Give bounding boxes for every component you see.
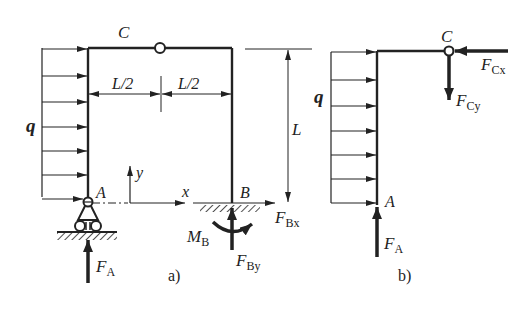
- label-height: L: [291, 120, 301, 139]
- ground-hatch-b: [200, 205, 260, 212]
- label-a-b: A: [384, 193, 395, 210]
- label-axis-x: x: [181, 183, 189, 200]
- label-a: A: [95, 184, 106, 201]
- caption-b: b): [398, 267, 411, 285]
- dimension-half-spans: [89, 76, 231, 112]
- label-c-b: C: [441, 27, 453, 46]
- caption-a: a): [168, 267, 180, 285]
- label-axis-y: y: [134, 164, 144, 182]
- statics-frame-diagram: C q L/2 L/2 L: [0, 0, 531, 310]
- label-c: C: [118, 23, 130, 42]
- figure-b: C q FCx FCy A FA b): [314, 27, 508, 285]
- label-fa-b: FA: [383, 234, 403, 256]
- ground-hatch-a: [57, 233, 117, 240]
- label-fa: FA: [95, 257, 115, 279]
- hinge-c-icon: [445, 47, 454, 56]
- label-b: B: [240, 184, 250, 201]
- label-fcy: FCy: [455, 91, 480, 113]
- label-q-b: q: [314, 86, 324, 107]
- frame-a: [88, 48, 232, 203]
- label-half-span-right: L/2: [177, 75, 199, 92]
- label-q: q: [26, 115, 36, 136]
- frame-b: [377, 51, 445, 205]
- distributed-load-q: [42, 48, 87, 199]
- dimension-height: [245, 49, 312, 202]
- figure-a: C q L/2 L/2 L: [26, 23, 312, 285]
- label-half-span-left: L/2: [111, 75, 133, 92]
- label-mb: MB: [186, 227, 209, 249]
- distributed-load-q-b: [331, 52, 376, 203]
- label-fcx: FCx: [480, 55, 505, 77]
- label-fbx: FBx: [274, 208, 299, 230]
- hinge-c-icon: [155, 43, 165, 53]
- label-fby: FBy: [235, 251, 260, 273]
